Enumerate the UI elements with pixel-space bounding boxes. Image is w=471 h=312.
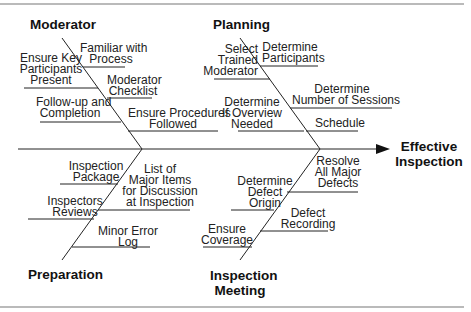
cause-moderator-checklist: Moderator Checklist [107, 75, 159, 97]
effect-label: Effective Inspection [393, 139, 465, 169]
cause-determine-defect-origin: Determine Defect Origin [236, 176, 294, 209]
cause-defect-recording: Defect Recording [278, 208, 338, 230]
category-preparation: Preparation [28, 267, 103, 282]
cause-ensure-coverage: Ensure Coverage [201, 224, 253, 246]
cause-schedule: Schedule [315, 118, 365, 129]
cause-list-of-major-items: List of Major Items for Discussion at In… [122, 164, 198, 208]
category-moderator: Moderator [30, 17, 96, 32]
cause-determine-participants: Determine Participants [262, 42, 318, 64]
cause-inspection-package: Inspection Package [68, 161, 124, 183]
cause-follow-up-completion: Follow-up and Completion [36, 97, 104, 119]
category-inspection-meeting: Inspection Meeting [210, 268, 270, 298]
cause-select-trained-moderator: Select Trained Moderator [196, 44, 258, 77]
cause-inspectors-reviews: Inspectors Reviews [46, 196, 104, 218]
cause-ensure-key-participants: Ensure Key Participants Present [17, 53, 85, 86]
cause-determine-if-overview-needed: Determine If Overview Needed [222, 97, 282, 130]
cause-determine-number-of-sessions: Determine Number of Sessions [292, 84, 392, 106]
arrow-head-icon [376, 144, 390, 154]
category-planning: Planning [213, 17, 270, 32]
cause-minor-error-log: Minor Error Log [96, 226, 160, 248]
cause-resolve-all-major-defects: Resolve All Major Defects [310, 156, 366, 189]
cause-ensure-procedures-followed: Ensure Procedures Followed [128, 108, 218, 130]
cause-familiar-with-process: Familiar with Process [80, 43, 142, 65]
